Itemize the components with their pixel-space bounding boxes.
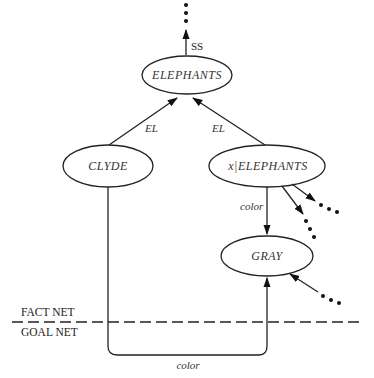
node-x-elephants[interactable]: x|ELEPHANTS (209, 145, 325, 187)
edge-ss-label: SS (191, 40, 203, 52)
edge-ss: SS (186, 30, 203, 55)
edge-gray-incoming (290, 274, 341, 305)
edge-x-color: color (240, 187, 267, 234)
edge-goal-color-label: color (176, 359, 200, 371)
node-clyde-label: CLYDE (88, 159, 128, 173)
edge-goal-color: color (108, 187, 267, 371)
node-elephants[interactable]: ELEPHANTS (142, 56, 232, 94)
continuation-dots-top (184, 3, 188, 23)
node-clyde[interactable]: CLYDE (63, 145, 153, 187)
node-gray-label: GRAY (251, 249, 283, 263)
edge-x-el: EL (193, 98, 265, 145)
edge-clyde-el: EL (109, 98, 177, 145)
edge-clyde-el-label: EL (144, 122, 158, 134)
node-gray[interactable]: GRAY (221, 236, 313, 276)
edge-x-other-1 (282, 186, 316, 239)
node-x-elephants-label: x|ELEPHANTS (227, 159, 307, 173)
node-elephants-label: ELEPHANTS (151, 68, 222, 82)
edge-x-color-label: color (240, 200, 264, 212)
semantic-network-diagram: SS ELEPHANTS EL EL CLYDE x|ELEPHANTS col… (0, 0, 374, 378)
edge-x-el-label: EL (211, 122, 225, 134)
fact-net-label: FACT NET (21, 306, 75, 318)
goal-net-label: GOAL NET (21, 326, 78, 338)
